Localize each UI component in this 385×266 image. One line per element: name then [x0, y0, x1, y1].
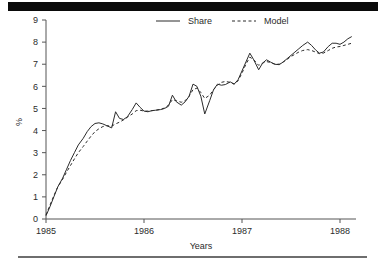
bottom-horizontal-rule	[18, 256, 367, 258]
y-tick-label: 2	[33, 170, 38, 180]
x-tick-label: 1986	[134, 226, 154, 236]
x-axis-title: Years	[190, 241, 213, 251]
y-tick-label: 5	[33, 104, 38, 114]
x-tick-label: 1985	[36, 226, 56, 236]
y-tick-label: 9	[33, 15, 38, 25]
y-tick-label: 7	[33, 59, 38, 69]
y-tick-label: 6	[33, 82, 38, 92]
series-line-share	[46, 37, 352, 216]
y-axis-title: %	[14, 118, 24, 126]
y-tick-label: 4	[33, 126, 38, 136]
y-tick-label: 0	[33, 214, 38, 224]
x-tick-label: 1988	[330, 226, 350, 236]
chart-legend: Share Model	[156, 16, 289, 26]
y-tick-label: 8	[33, 37, 38, 47]
chart-figure-page: 0123456789 1985198619871988 % Years Shar…	[0, 0, 385, 266]
legend-label-model: Model	[264, 16, 289, 26]
y-axis-ticks: 0123456789	[33, 15, 46, 224]
series-line-model	[46, 43, 352, 215]
y-tick-label: 3	[33, 148, 38, 158]
x-axis-ticks: 1985198619871988	[36, 219, 350, 236]
x-tick-label: 1987	[232, 226, 252, 236]
y-tick-label: 1	[33, 192, 38, 202]
chart-series-layer	[46, 37, 352, 216]
line-chart: 0123456789 1985198619871988 % Years Shar…	[0, 0, 385, 266]
legend-label-share: Share	[188, 16, 212, 26]
